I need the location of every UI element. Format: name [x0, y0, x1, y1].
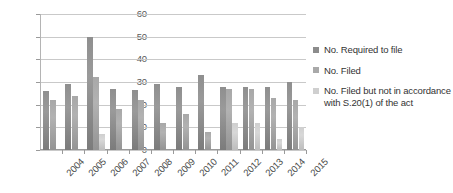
bar-2014-series-1 [271, 98, 277, 150]
bar-group-2005 [65, 14, 83, 150]
bar-2010-series-1 [183, 114, 189, 150]
bar-2013-series-0 [243, 87, 249, 150]
x-axis-label-2014: 2014 [285, 156, 307, 178]
y-tick-mark-0 [36, 150, 40, 151]
bar-group-2015 [287, 14, 305, 150]
x-axis-labels: 2004200520062007200820092010201120122013… [40, 152, 306, 193]
bar-2012-series-0 [220, 87, 226, 150]
legend-swatch-icon-1 [313, 67, 319, 73]
bar-group-2008 [132, 14, 150, 150]
legend-item-2[interactable]: No. Filed but not in accordance with S.2… [313, 85, 451, 108]
bar-group-2014 [265, 14, 283, 150]
legend-label-1: No. Filed [324, 65, 361, 77]
x-axis-label-2012: 2012 [241, 156, 263, 178]
bars-layer [40, 14, 306, 150]
bar-2009-series-1 [160, 123, 166, 150]
bar-2012-series-2 [232, 123, 238, 150]
bar-2015-series-0 [287, 82, 293, 150]
bar-2010-series-0 [176, 87, 182, 150]
x-axis-label-2008: 2008 [152, 156, 174, 178]
x-axis-label-2015: 2015 [308, 156, 330, 178]
legend-label-0: No. Required to file [324, 44, 402, 56]
bar-2015-series-1 [293, 100, 299, 150]
x-axis-label-2010: 2010 [197, 156, 219, 178]
x-axis-label-2009: 2009 [175, 156, 197, 178]
chart-legend: No. Required to fileNo. FiledNo. Filed b… [313, 44, 451, 117]
x-tick-mark-2015 [306, 150, 307, 154]
bar-2014-series-2 [277, 139, 283, 150]
x-axis-label-2004: 2004 [64, 156, 86, 178]
x-axis-label-2011: 2011 [219, 156, 241, 178]
bar-2009-series-0 [154, 84, 160, 150]
bar-2007-series-0 [110, 89, 116, 150]
bar-group-2013 [243, 14, 261, 150]
bar-2004-series-1 [50, 100, 56, 150]
x-axis-label-2006: 2006 [108, 156, 130, 178]
x-axis-label-2007: 2007 [130, 156, 152, 178]
bar-2012-series-1 [226, 89, 232, 150]
bar-2007-series-1 [116, 109, 122, 150]
bar-2004-series-0 [43, 91, 49, 150]
bar-2008-series-0 [132, 90, 138, 150]
bar-2011-series-1 [205, 132, 211, 150]
plot-area [40, 14, 306, 150]
legend-swatch-icon-0 [313, 47, 319, 53]
bar-chart: 0102030405060 20042005200620072008200920… [0, 0, 453, 193]
bar-2013-series-2 [255, 123, 261, 150]
bar-2006-series-0 [87, 37, 93, 150]
bar-2014-series-0 [265, 87, 271, 150]
bar-group-2004 [43, 14, 61, 150]
bar-2013-series-1 [249, 89, 255, 150]
bar-group-2009 [154, 14, 172, 150]
bar-group-2011 [198, 14, 216, 150]
bar-2005-series-1 [72, 96, 78, 150]
bar-2005-series-0 [65, 84, 71, 150]
bar-group-2007 [110, 14, 128, 150]
legend-label-2: No. Filed but not in accordance with S.2… [324, 85, 451, 108]
x-axis-label-2013: 2013 [263, 156, 285, 178]
legend-item-0[interactable]: No. Required to file [313, 44, 451, 56]
bar-2015-series-2 [299, 127, 305, 150]
bar-group-2006 [87, 14, 105, 150]
bar-2011-series-0 [198, 75, 204, 150]
bar-group-2010 [176, 14, 194, 150]
x-axis-label-2005: 2005 [86, 156, 108, 178]
legend-item-1[interactable]: No. Filed [313, 65, 451, 77]
legend-swatch-icon-2 [313, 88, 319, 94]
bar-2008-series-1 [138, 100, 144, 150]
bar-group-2012 [220, 14, 238, 150]
bar-2006-series-2 [99, 134, 105, 150]
bar-2006-series-1 [93, 77, 99, 150]
